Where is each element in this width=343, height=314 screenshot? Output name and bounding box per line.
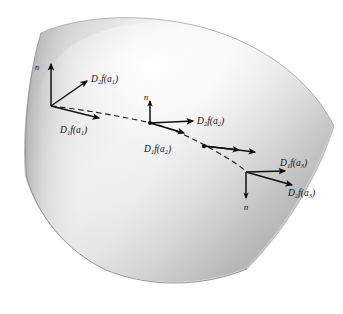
label-d1fa1-mid: f(a: [70, 125, 81, 136]
surface-diagram: n D2f(a1) D1f(a1) n D2f(a2): [0, 0, 343, 314]
normal-label-n3: n: [244, 202, 249, 212]
label-d2fa3-mid: f(a: [298, 188, 309, 199]
vector-d1fa3: [246, 171, 285, 172]
label-d1fa2-main: D: [143, 144, 151, 154]
label-d2fa1-mid: f(a: [101, 74, 112, 85]
label-d2fa2-main: D: [196, 116, 204, 126]
normal-label-n1: n: [35, 62, 40, 72]
label-d1fa1-main: D: [59, 125, 67, 135]
label-d1fa2-mid: f(a: [154, 144, 165, 155]
label-d2fa3-end: ): [311, 188, 315, 199]
label-d1fa2-end: ): [167, 144, 171, 155]
figure-container: n D2f(a1) D1f(a1) n D2f(a2): [0, 0, 343, 314]
label-d2fa2-end: ): [220, 116, 224, 127]
label-d2fa2-mid: f(a: [207, 116, 218, 127]
label-d2fa3: D2f(a3): [287, 188, 315, 199]
label-d1fa1-end: ): [83, 125, 87, 136]
normal-label-n2: n: [144, 92, 149, 102]
label-d1fa3-mid: f(a: [290, 158, 301, 169]
label-d2fa1-main: D: [90, 74, 98, 84]
label-d1fa3-main: D: [279, 158, 287, 168]
label-d2fa1-end: ): [114, 74, 118, 85]
label-d1fa3-end: ): [303, 158, 307, 169]
label-d2fa3-main: D: [287, 188, 295, 198]
surface-patch: [0, 0, 343, 314]
